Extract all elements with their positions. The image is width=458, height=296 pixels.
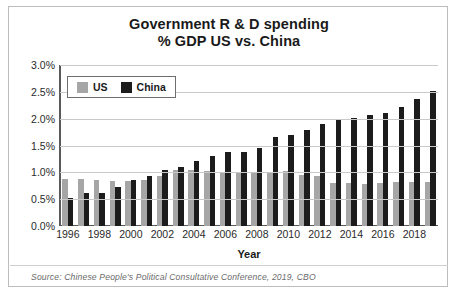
legend-swatch-us xyxy=(77,82,88,93)
gridline xyxy=(60,172,438,173)
legend-item-china: China xyxy=(121,81,166,93)
x-axis-tick-label: 2000 xyxy=(119,228,142,240)
chart-legend: US China xyxy=(67,76,176,98)
gridline xyxy=(60,119,438,120)
y-axis-tick-label: 1.5% xyxy=(11,140,55,152)
y-axis-tick-label: 3.0% xyxy=(11,59,55,71)
bar-china xyxy=(383,113,388,226)
legend-label-china: China xyxy=(137,81,166,93)
chart-frame: Government R & D spending % GDP US vs. C… xyxy=(8,6,448,287)
bar-china xyxy=(115,187,120,226)
gridline xyxy=(60,199,438,200)
x-axis-tick-label: 2010 xyxy=(277,228,300,240)
legend-label-us: US xyxy=(93,81,108,93)
x-axis-tick-label: 2016 xyxy=(371,228,394,240)
bar-china xyxy=(194,161,199,226)
gridline xyxy=(60,65,438,66)
bar-china xyxy=(288,135,293,226)
footer-divider xyxy=(10,265,448,266)
source-note: Source: Chinese People's Political Consu… xyxy=(31,272,316,282)
y-axis-tick-labels: 3.0%2.5%2.0%1.5%1.0%0.5%0.0% xyxy=(9,65,55,226)
bar-china xyxy=(147,176,152,226)
legend-item-us: US xyxy=(77,81,108,93)
y-axis-tick-label: 1.0% xyxy=(11,166,55,178)
bar-china xyxy=(367,115,372,226)
bar-china xyxy=(320,124,325,227)
y-axis-tick-label: 0.5% xyxy=(11,193,55,205)
chart-title: Government R & D spending % GDP US vs. C… xyxy=(9,16,449,50)
x-axis-tick-label: 2002 xyxy=(151,228,174,240)
bar-china xyxy=(162,170,167,226)
y-axis-tick-label: 2.5% xyxy=(11,86,55,98)
chart-title-line2: % GDP US vs. China xyxy=(9,33,449,50)
y-axis-tick-label: 2.0% xyxy=(11,113,55,125)
bar-china xyxy=(68,198,73,226)
x-axis-tick-label: 2006 xyxy=(214,228,237,240)
x-axis-tick-label: 2004 xyxy=(182,228,205,240)
bar-china xyxy=(178,167,183,226)
gridline xyxy=(60,146,438,147)
bar-china xyxy=(399,107,404,226)
chart-title-line1: Government R & D spending xyxy=(9,16,449,33)
bar-china xyxy=(257,148,262,226)
bar-china xyxy=(273,137,278,226)
bar-china xyxy=(225,152,230,226)
bar-china xyxy=(210,156,215,226)
x-axis-tick-label: 1998 xyxy=(88,228,111,240)
x-axis-tick-label: 2014 xyxy=(340,228,363,240)
bar-china xyxy=(241,152,246,226)
x-axis-tick-label: 1996 xyxy=(56,228,79,240)
x-axis-title: Year xyxy=(60,248,438,260)
x-axis-tick-labels: 1996199820002002200420062008201020122014… xyxy=(60,228,438,244)
x-axis-tick-label: 2012 xyxy=(308,228,331,240)
x-axis-tick-label: 2018 xyxy=(403,228,426,240)
x-axis-tick-label: 2008 xyxy=(245,228,268,240)
bar-china xyxy=(131,180,136,226)
legend-swatch-china xyxy=(121,82,132,93)
y-axis-tick-label: 0.0% xyxy=(11,220,55,232)
bar-china xyxy=(430,91,435,226)
